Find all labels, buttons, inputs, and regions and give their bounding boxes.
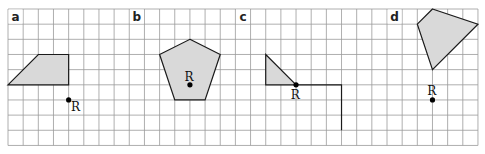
panel-a: aR (8, 10, 81, 115)
panel-label: d (390, 10, 399, 24)
rotation-exercise-figure: aRbRcRdR (0, 0, 485, 154)
center-point-label: R (291, 88, 301, 102)
center-point-label: R (427, 84, 437, 98)
panel-label: c (239, 10, 246, 24)
grid-diagram: aRbRcRdR (0, 0, 485, 154)
panel-d: dR (388, 9, 478, 103)
panel-label: b (133, 10, 142, 24)
center-point-label: R (185, 70, 195, 84)
center-point-label: R (71, 100, 81, 114)
guide-line (296, 85, 341, 130)
panel-label: a (12, 10, 20, 24)
square-grid (8, 9, 478, 145)
center-point-dot (293, 82, 298, 87)
